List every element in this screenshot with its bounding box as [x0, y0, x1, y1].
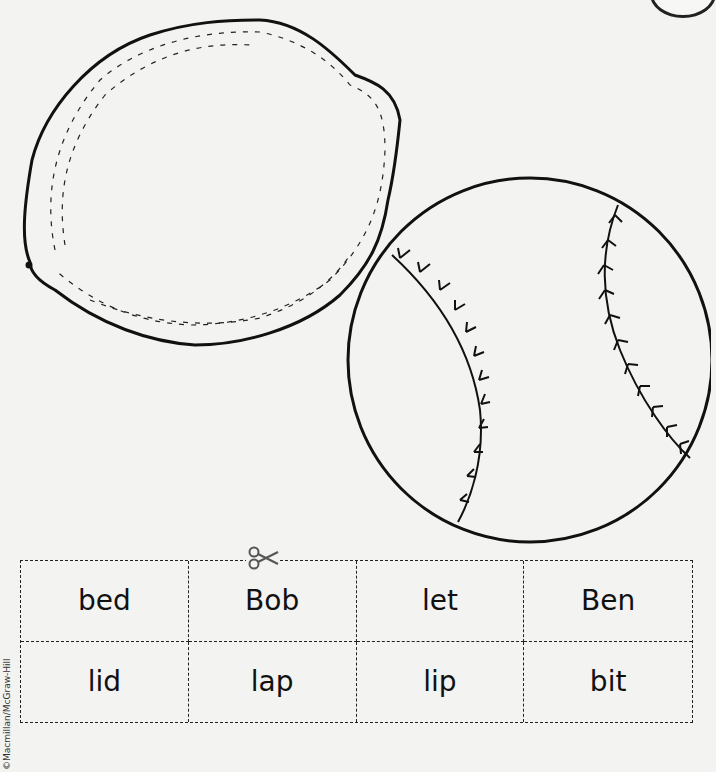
word-card-grid: bed Bob let Ben lid lap lip bit [20, 560, 693, 723]
word-card[interactable]: Bob [189, 561, 357, 642]
word-card[interactable]: Ben [524, 561, 692, 642]
word-card[interactable]: lid [21, 642, 189, 723]
copyright-text: ©Macmillan/McGraw-Hill [2, 610, 12, 770]
scissors-icon [246, 546, 280, 570]
word-card[interactable]: let [357, 561, 525, 642]
word-card[interactable]: bed [21, 561, 189, 642]
lemon-picture [24, 20, 400, 345]
ball-picture [348, 178, 711, 542]
word-card[interactable]: lap [189, 642, 357, 723]
word-card[interactable]: bit [524, 642, 692, 723]
illustrations [0, 0, 711, 560]
word-card[interactable]: lip [357, 642, 525, 723]
